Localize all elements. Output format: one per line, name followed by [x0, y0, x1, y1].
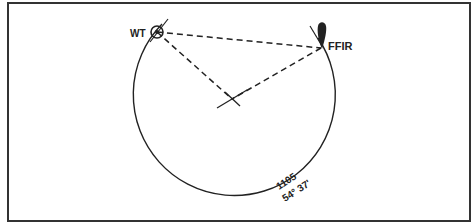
center-cross-stroke: [225, 92, 240, 106]
wt-label: WT: [130, 28, 146, 39]
ffir-label: FFIR: [328, 40, 352, 52]
dashed-wt-center: [157, 32, 232, 99]
position-circle-arc: [133, 24, 335, 196]
ffir-teardrop-icon: [318, 22, 327, 49]
dashed-wt-ffir: [157, 32, 321, 48]
navigation-diagram: WT FFIR 1105 54° 37': [0, 0, 471, 224]
